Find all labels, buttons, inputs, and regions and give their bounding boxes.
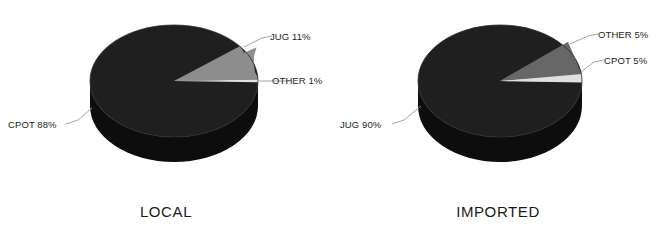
label-cpot-imported: CPOT 5% (604, 55, 647, 66)
label-jug-imported: JUG 90% (340, 119, 381, 130)
chart-panel-local: JUG 11% OTHER 1% CPOT 88% LOCAL (0, 0, 332, 242)
leader-line-cpot-local (66, 108, 92, 124)
pie-chart-figure: JUG 11% OTHER 1% CPOT 88% LOCAL OTHER 5% (0, 0, 664, 242)
chart-caption-imported: IMPORTED (332, 203, 664, 220)
label-jug-local: JUG 11% (270, 31, 311, 42)
chart-caption-local: LOCAL (0, 203, 332, 220)
leader-line-jug-imported (392, 106, 421, 124)
pie-chart-local (0, 0, 332, 190)
leader-line-cpot-imported (581, 60, 604, 72)
label-cpot-local: CPOT 88% (8, 119, 57, 130)
chart-panel-imported: OTHER 5% CPOT 5% JUG 90% IMPORTED (332, 0, 664, 242)
leader-line-other-imported (570, 34, 598, 44)
label-other-imported: OTHER 5% (598, 29, 648, 40)
label-other-local: OTHER 1% (272, 75, 322, 86)
leader-line-jug-local (244, 36, 272, 47)
